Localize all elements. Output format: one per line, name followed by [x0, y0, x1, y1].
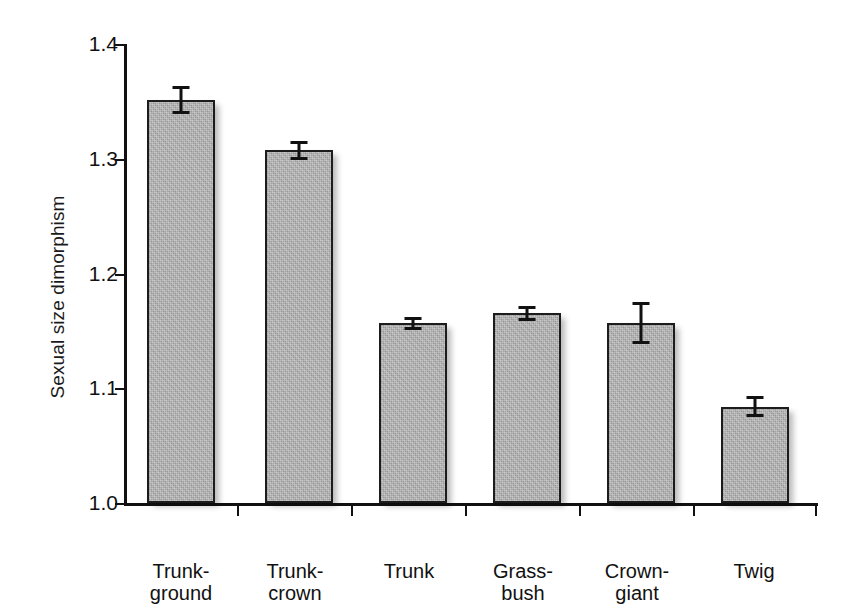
error-bar-cap-upper — [633, 302, 650, 305]
y-axis-spine — [124, 44, 127, 506]
bar-trunk-crown[interactable] — [265, 150, 333, 503]
x-axis-spine — [124, 503, 818, 506]
x-tick-5 — [693, 505, 695, 516]
x-tick-6 — [815, 505, 817, 516]
bar-grass-bush[interactable] — [493, 313, 561, 503]
x-label-grass-bush: Grass- bush — [466, 561, 580, 604]
x-tick-3 — [465, 505, 467, 516]
y-axis-title-text: Sexual size dimorphism — [47, 196, 69, 399]
y-tick-label-1.4: 1.4 — [89, 32, 118, 56]
error-bar-cap-upper — [405, 317, 422, 320]
y-tick-label-1.0: 1.0 — [89, 491, 118, 515]
x-tick-1 — [237, 505, 239, 516]
x-tick-2 — [351, 505, 353, 516]
error-bar-cap-upper — [747, 396, 764, 399]
bar-trunk-ground[interactable] — [147, 100, 215, 503]
x-label-trunk: Trunk — [352, 561, 466, 583]
y-tick-label-1.1: 1.1 — [89, 376, 118, 400]
x-label-twig: Twig — [694, 561, 814, 583]
x-label-trunk-ground: Trunk- ground — [124, 561, 238, 604]
bar-trunk[interactable] — [379, 323, 447, 503]
y-tick-label-1.3: 1.3 — [89, 147, 118, 171]
plot-area: 1.0 1.1 1.2 1.3 1.4 — [124, 44, 815, 503]
error-bar-cap-upper — [519, 306, 536, 309]
x-tick-4 — [579, 505, 581, 516]
bar-twig[interactable] — [721, 407, 789, 503]
error-bar-cap-upper — [173, 86, 190, 89]
bar-crown-giant[interactable] — [607, 323, 675, 503]
error-bar-cap-upper — [291, 141, 308, 144]
y-tick-label-1.2: 1.2 — [89, 262, 118, 286]
x-label-trunk-crown: Trunk- crown — [238, 561, 352, 604]
x-label-crown-giant: Crown- giant — [580, 561, 694, 604]
